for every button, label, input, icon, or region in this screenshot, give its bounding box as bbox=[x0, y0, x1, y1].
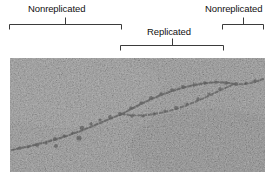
annotation-label-right-nonreplicated: Nonreplicated bbox=[205, 3, 262, 14]
annotation-bracket-right-nonreplicated bbox=[222, 17, 264, 30]
figure-replicating-dna: Nonreplicated Replicated Nonreplicated bbox=[0, 0, 274, 179]
annotation-bracket-replicated bbox=[120, 38, 224, 51]
annotation-bracket-left-nonreplicated bbox=[9, 17, 122, 30]
annotation-label-replicated: Replicated bbox=[147, 26, 191, 37]
annotation-label-left-nonreplicated: Nonreplicated bbox=[28, 3, 85, 14]
electron-micrograph bbox=[10, 58, 265, 172]
